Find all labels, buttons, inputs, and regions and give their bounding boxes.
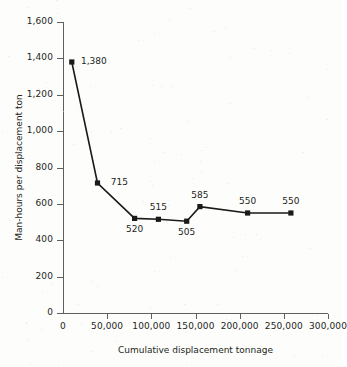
data-point-label: 550 (239, 196, 256, 206)
noise-speck (154, 33, 155, 34)
noise-speck (157, 354, 158, 355)
noise-speck (310, 248, 311, 249)
noise-speck (154, 271, 155, 272)
noise-speck (95, 179, 96, 180)
noise-speck (91, 131, 92, 132)
noise-speck (186, 363, 187, 364)
noise-speck (63, 111, 64, 112)
data-point-marker (132, 216, 137, 221)
noise-speck (161, 86, 162, 87)
noise-speck (235, 270, 236, 271)
noise-speck (39, 89, 40, 90)
noise-speck (192, 178, 193, 179)
noise-speck (73, 144, 74, 145)
noise-speck (41, 329, 42, 330)
series-markers (69, 59, 293, 223)
noise-speck (52, 283, 53, 284)
data-point-label: 520 (126, 224, 143, 234)
noise-speck (97, 286, 98, 287)
noise-speck (200, 161, 201, 162)
noise-speck (225, 28, 226, 29)
y-axis-title: Man-hours per displacement ton (14, 22, 28, 313)
noise-speck (168, 205, 169, 206)
data-point-label: 715 (111, 177, 128, 187)
noise-speck (242, 256, 243, 257)
noise-speck (190, 8, 191, 9)
noise-speck (303, 152, 304, 153)
noise-speck (214, 31, 215, 32)
noise-speck (27, 339, 28, 340)
noise-speck (143, 201, 144, 202)
data-point-label: 515 (150, 202, 167, 212)
noise-speck (185, 332, 186, 333)
noise-speck (169, 19, 170, 20)
noise-speck (171, 86, 172, 87)
noise-speck (206, 147, 207, 148)
noise-speck (226, 319, 227, 320)
data-point-marker (245, 210, 250, 215)
noise-speck (8, 56, 9, 57)
noise-speck (78, 304, 79, 305)
noise-speck (28, 7, 29, 8)
series-line (72, 62, 291, 221)
data-point-marker (197, 204, 202, 209)
noise-speck (154, 161, 155, 162)
noise-speck (230, 103, 231, 104)
data-point-marker (95, 180, 100, 185)
noise-speck (21, 130, 22, 131)
noise-speck (41, 163, 42, 164)
noise-speck (115, 341, 116, 342)
noise-speck (187, 121, 188, 122)
noise-speck (60, 18, 61, 19)
data-point-label: 585 (191, 190, 208, 200)
noise-speck (201, 172, 202, 173)
data-point-label: 550 (282, 196, 299, 206)
noise-speck (111, 131, 112, 132)
noise-speck (10, 220, 11, 221)
data-point-marker (184, 219, 189, 224)
noise-speck (181, 154, 182, 155)
noise-speck (92, 281, 93, 282)
noise-speck (163, 152, 164, 153)
noise-speck (150, 138, 151, 139)
noise-speck (81, 324, 82, 325)
noise-speck (138, 40, 139, 41)
noise-speck (327, 119, 328, 120)
noise-speck (307, 97, 308, 98)
noise-speck (322, 355, 323, 356)
noise-speck (152, 185, 153, 186)
noise-speck (233, 237, 234, 238)
data-point-marker (156, 217, 161, 222)
noise-speck (26, 323, 27, 324)
noise-speck (78, 108, 79, 109)
noise-speck (42, 291, 43, 292)
noise-speck (230, 57, 231, 58)
noise-speck (30, 363, 31, 364)
noise-speck (150, 307, 151, 308)
data-point-marker (288, 210, 293, 215)
noise-speck (294, 355, 295, 356)
noise-speck (152, 85, 153, 86)
noise-speck (170, 257, 171, 258)
noise-speck (270, 335, 271, 336)
noise-speck (2, 277, 3, 278)
data-point-marker (69, 59, 74, 64)
noise-speck (16, 151, 17, 152)
data-point-label: 505 (178, 227, 195, 237)
noise-speck (227, 183, 228, 184)
noise-speck (317, 315, 318, 316)
noise-speck (184, 304, 185, 305)
noise-speck (245, 234, 246, 235)
noise-speck (202, 150, 203, 151)
noise-speck (56, 0, 57, 1)
x-axis-title: Cumulative displacement tonnage (63, 345, 328, 355)
data-point-label: 1,380 (81, 56, 107, 66)
noise-speck (46, 82, 47, 83)
noise-speck (271, 50, 272, 51)
noise-speck (91, 351, 92, 352)
noise-speck (289, 53, 290, 54)
noise-speck (2, 132, 3, 133)
noise-speck (327, 69, 328, 70)
